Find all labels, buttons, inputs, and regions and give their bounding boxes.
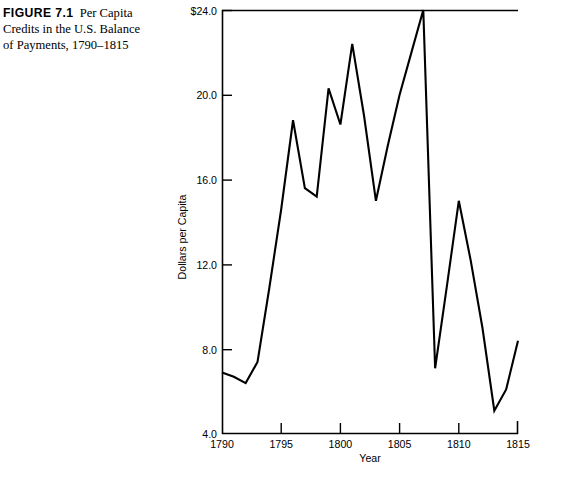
figure-caption: FIGURE 7.1 Per Capita Credits in the U.S… — [3, 5, 153, 54]
y-tick-label-1: 20.0 — [196, 89, 217, 101]
y-axis-ticks — [222, 11, 232, 350]
y-tick-label-2: 16.0 — [196, 174, 217, 186]
y-tick-label-0: $24.0 — [190, 5, 217, 17]
y-tick-label-3: 12.0 — [196, 259, 217, 271]
x-tick-labels: 1790 1795 1800 1805 1810 1815 — [210, 438, 530, 450]
x-tick-label-1815: 1815 — [506, 438, 530, 450]
x-tick-label-1805: 1805 — [388, 438, 412, 450]
x-tick-label-1810: 1810 — [447, 438, 471, 450]
x-tick-label-1800: 1800 — [329, 438, 353, 450]
y-axis-title: Dollars per Capita — [176, 195, 188, 280]
figure-root: FIGURE 7.1 Per Capita Credits in the U.S… — [0, 0, 569, 478]
y-tick-label-4: 8.0 — [202, 344, 217, 356]
y-tick-labels: $24.0 20.0 16.0 12.0 8.0 4.0 — [190, 5, 217, 440]
line-chart: $24.0 20.0 16.0 12.0 8.0 4.0 1790 1795 1… — [160, 0, 569, 478]
figure-number-label: FIGURE 7.1 — [3, 6, 73, 20]
source-note-fragment — [182, 468, 567, 478]
x-axis-title: Year — [359, 452, 381, 464]
x-tick-label-1790: 1790 — [210, 438, 234, 450]
x-axis-ticks — [281, 423, 459, 434]
x-tick-label-1795: 1795 — [269, 438, 293, 450]
chart-container: $24.0 20.0 16.0 12.0 8.0 4.0 1790 1795 1… — [160, 0, 569, 478]
chart-axes — [222, 10, 518, 434]
data-series-line — [222, 10, 518, 411]
